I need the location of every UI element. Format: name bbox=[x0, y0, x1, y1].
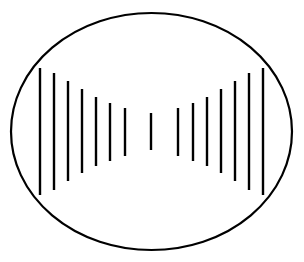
illusion-figure bbox=[0, 0, 304, 262]
figure-canvas bbox=[0, 0, 304, 262]
